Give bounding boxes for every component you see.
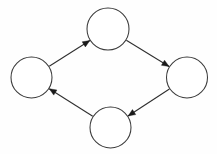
edge-line bbox=[126, 40, 169, 66]
arrow-head-icon bbox=[161, 60, 169, 66]
diagram-canvas bbox=[0, 0, 217, 154]
node-circle[interactable] bbox=[167, 57, 208, 98]
arrow-head-icon bbox=[128, 110, 136, 116]
node-circle[interactable] bbox=[87, 8, 129, 50]
edge-line bbox=[128, 89, 169, 116]
edge-top-to-right bbox=[126, 40, 169, 66]
node-left[interactable] bbox=[11, 57, 52, 98]
directed-cycle-graph bbox=[0, 0, 217, 154]
node-circle[interactable] bbox=[11, 57, 52, 98]
edges-layer bbox=[49, 40, 169, 116]
arrow-head-icon bbox=[82, 41, 90, 47]
nodes-layer bbox=[11, 8, 208, 148]
arrow-head-icon bbox=[49, 89, 57, 95]
node-right[interactable] bbox=[167, 57, 208, 98]
edge-right-to-bottom bbox=[128, 89, 169, 116]
edge-bottom-to-left bbox=[49, 89, 93, 117]
node-bottom[interactable] bbox=[90, 107, 131, 148]
edge-left-to-top bbox=[49, 41, 90, 67]
node-top[interactable] bbox=[87, 8, 129, 50]
edge-line bbox=[49, 89, 93, 117]
node-circle[interactable] bbox=[90, 107, 131, 148]
